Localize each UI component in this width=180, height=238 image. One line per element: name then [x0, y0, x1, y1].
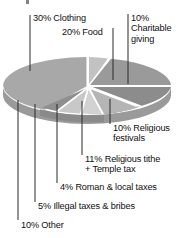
label-religious-festivals: 10% Religious festivals	[113, 123, 180, 144]
label-roman-taxes: 4% Roman & local taxes	[60, 182, 157, 192]
label-religious-tithe: 11% Religious tithe + Temple tax	[85, 154, 180, 175]
label-food: 20% Food	[62, 27, 103, 37]
label-charitable-line1: 10%	[131, 13, 179, 23]
label-charitable-line2: Charitable	[131, 23, 179, 33]
label-charitable-giving: 10% Charitable giving	[131, 13, 179, 44]
label-illegal-taxes: 5% Illegal taxes & bribes	[38, 201, 135, 211]
label-other: 10% Other	[21, 220, 64, 230]
pie-chart-figure: 30% Clothing 20% Food 10% Charitable giv…	[0, 0, 180, 238]
label-festivals-line2: festivals	[113, 133, 180, 143]
label-charitable-line3: giving	[131, 34, 179, 44]
label-festivals-line1: 10% Religious	[113, 123, 180, 133]
label-tithe-line1: 11% Religious tithe	[85, 154, 180, 164]
label-tithe-line2: + Temple tax	[85, 164, 180, 174]
label-clothing: 30% Clothing	[33, 13, 86, 23]
